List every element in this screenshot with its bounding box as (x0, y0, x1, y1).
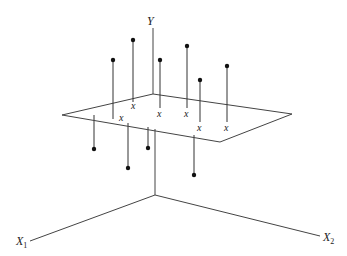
x1-axis (30, 195, 155, 241)
regression-plane (62, 94, 292, 142)
data-point-above-2 (131, 38, 135, 42)
plane-mark-1: x (130, 100, 136, 111)
plane-mark-4: x (118, 112, 124, 123)
plane-mark-3: x (183, 108, 189, 119)
data-point-below-1 (92, 147, 96, 151)
data-point-below-3 (146, 146, 150, 150)
plane-mark-2: x (156, 108, 162, 119)
data-point-above-6 (225, 64, 229, 68)
x1-axis-label: X1 (15, 234, 27, 250)
plane-marks-group: x x x x x x (118, 100, 229, 133)
data-point-above-5 (198, 78, 202, 82)
x2-axis (155, 195, 320, 236)
data-point-above-1 (111, 58, 115, 62)
data-point-below-4 (192, 173, 196, 177)
x1-axis-label-subscript: 1 (23, 241, 27, 250)
plane-mark-6: x (223, 122, 229, 133)
plane-mark-5: x (196, 122, 202, 133)
x2-axis-label-subscript: 2 (330, 237, 334, 246)
data-point-above-3 (158, 58, 162, 62)
x2-axis-label: X2 (322, 230, 334, 246)
points-below-group (92, 115, 196, 177)
data-point-below-2 (126, 166, 130, 170)
points-above-group (111, 38, 229, 122)
y-axis-label: Y (147, 14, 155, 28)
regression-plane-diagram: x x x x x x Y X1 X2 (0, 0, 347, 256)
data-point-above-4 (185, 44, 189, 48)
